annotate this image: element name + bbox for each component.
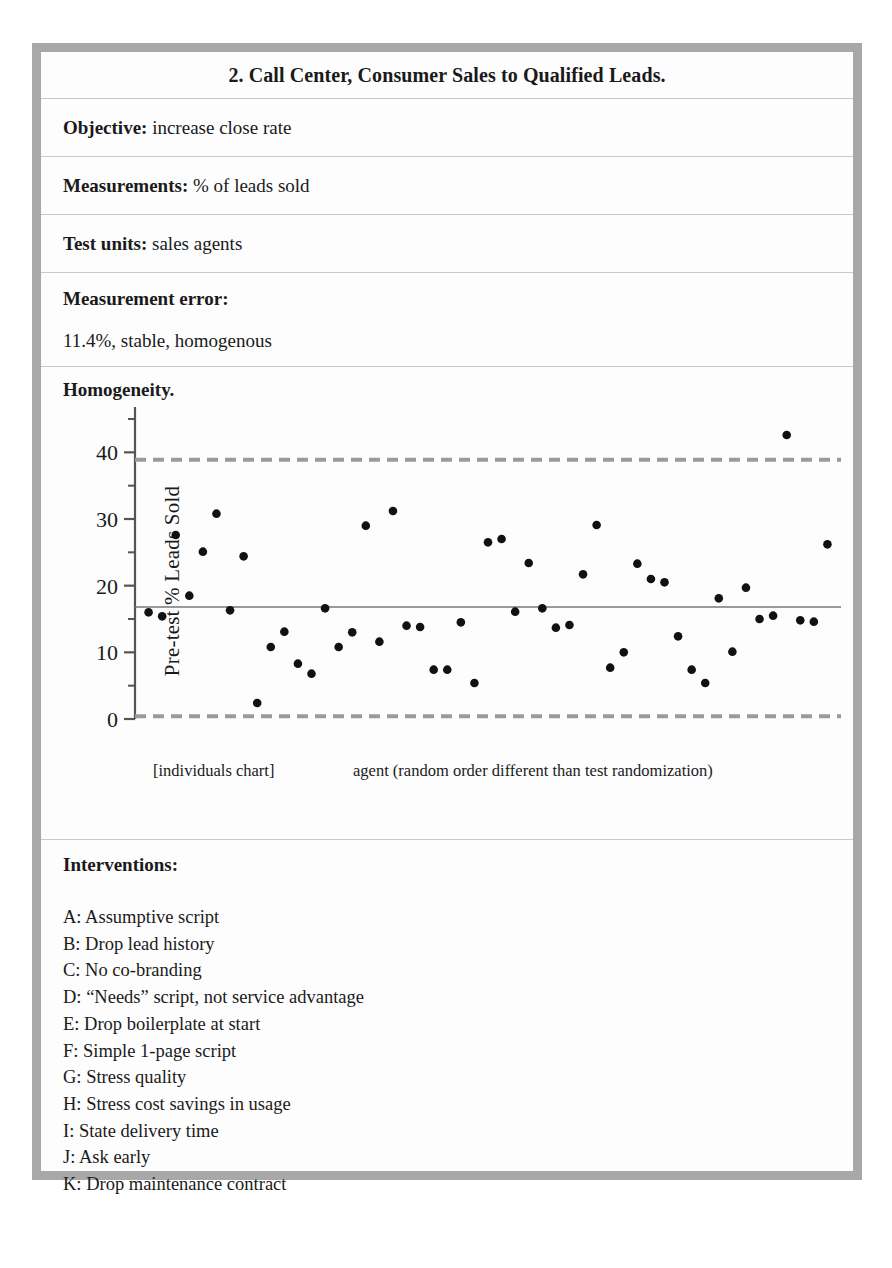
data-point <box>497 535 506 544</box>
data-point <box>606 663 615 672</box>
data-point <box>226 606 235 615</box>
data-point <box>429 665 438 674</box>
scanned-page-frame: 2. Call Center, Consumer Sales to Qualif… <box>32 43 862 1180</box>
data-point <box>389 507 398 516</box>
field-measurements: Measurements: % of leads sold <box>41 157 853 215</box>
data-point <box>592 521 601 530</box>
data-point <box>701 679 710 688</box>
data-point <box>810 617 819 626</box>
data-point <box>823 540 832 549</box>
data-point <box>443 665 452 674</box>
data-point <box>769 611 778 620</box>
field-test-units-label: Test units: <box>63 233 147 254</box>
data-point <box>158 612 167 621</box>
data-point <box>171 531 180 540</box>
data-point <box>294 659 303 668</box>
field-measurements-value: % of leads sold <box>188 175 309 196</box>
data-point <box>185 591 194 600</box>
y-axis-tick-label: 20 <box>96 574 118 599</box>
data-point <box>538 604 547 613</box>
chart-captions: [individuals chart] agent (random order … <box>63 761 831 791</box>
field-measurement-error: Measurement error: 11.4%, stable, homoge… <box>41 273 853 367</box>
field-objective-label: Objective: <box>63 117 147 138</box>
data-point <box>362 521 371 530</box>
chart-canvas: 010203040 <box>63 401 853 761</box>
data-point <box>552 623 561 632</box>
intervention-item: C: No co-branding <box>63 957 831 984</box>
intervention-item: G: Stress quality <box>63 1064 831 1091</box>
data-point <box>524 559 533 568</box>
intervention-item: H: Stress cost savings in usage <box>63 1091 831 1118</box>
data-point <box>266 643 275 652</box>
chart-caption-right: agent (random order different than test … <box>353 761 713 781</box>
data-point <box>321 604 330 613</box>
interventions-section: Interventions: A: Assumptive scriptB: Dr… <box>41 840 853 1171</box>
data-point <box>253 699 262 708</box>
data-point <box>470 679 479 688</box>
intervention-item: K: Drop maintenance contract <box>63 1171 831 1198</box>
intervention-item: B: Drop lead history <box>63 931 831 958</box>
field-measurements-label: Measurements: <box>63 175 188 196</box>
intervention-item: F: Simple 1-page script <box>63 1038 831 1065</box>
data-point <box>348 628 357 637</box>
data-point <box>728 647 737 656</box>
field-test-units-value: sales agents <box>147 233 242 254</box>
data-point <box>457 618 466 627</box>
y-axis-tick-label: 40 <box>96 440 118 465</box>
interventions-title: Interventions: <box>63 840 831 876</box>
data-point <box>755 615 764 624</box>
data-point <box>144 608 153 617</box>
field-objective: Objective: increase close rate <box>41 99 853 157</box>
data-point <box>280 627 289 636</box>
data-point <box>212 509 221 518</box>
field-measurement-error-label: Measurement error: <box>63 288 228 309</box>
y-axis-tick-label: 0 <box>107 707 118 732</box>
data-point <box>647 575 656 584</box>
page-title-text: 2. Call Center, Consumer Sales to Qualif… <box>228 64 665 86</box>
homogeneity-section: Homogeneity. Pre-test % Leads Sold 01020… <box>41 367 853 840</box>
intervention-item: E: Drop boilerplate at start <box>63 1011 831 1038</box>
data-point <box>674 632 683 641</box>
individuals-chart: Pre-test % Leads Sold 010203040 <box>63 401 831 761</box>
interventions-list: A: Assumptive scriptB: Drop lead history… <box>63 904 831 1198</box>
data-point <box>199 547 208 556</box>
data-point <box>619 648 628 657</box>
intervention-item: D: “Needs” script, not service advantage <box>63 984 831 1011</box>
field-objective-value: increase close rate <box>147 117 291 138</box>
data-point <box>579 570 588 579</box>
page-title: 2. Call Center, Consumer Sales to Qualif… <box>41 52 853 99</box>
data-point <box>239 552 248 561</box>
data-point <box>416 623 425 632</box>
data-point <box>687 665 696 674</box>
y-axis-tick-label: 30 <box>96 507 118 532</box>
data-point <box>565 621 574 630</box>
data-point <box>715 594 724 603</box>
data-point <box>484 538 493 547</box>
data-point <box>511 607 520 616</box>
data-point <box>633 559 642 568</box>
field-measurement-error-value: 11.4%, stable, homogenous <box>63 330 272 351</box>
intervention-item: A: Assumptive script <box>63 904 831 931</box>
intervention-item: J: Ask early <box>63 1144 831 1171</box>
data-point <box>307 669 316 678</box>
data-point <box>660 578 669 587</box>
homogeneity-heading: Homogeneity. <box>63 367 831 401</box>
y-axis-tick-label: 10 <box>96 640 118 665</box>
field-test-units: Test units: sales agents <box>41 215 853 273</box>
data-point <box>742 583 751 592</box>
page-body: 2. Call Center, Consumer Sales to Qualif… <box>41 52 853 1171</box>
data-point <box>375 637 384 646</box>
data-point <box>334 643 343 652</box>
data-point <box>402 621 411 630</box>
intervention-item: I: State delivery time <box>63 1118 831 1145</box>
data-point <box>782 431 791 440</box>
data-point <box>796 616 805 625</box>
chart-caption-left: [individuals chart] <box>153 761 274 781</box>
